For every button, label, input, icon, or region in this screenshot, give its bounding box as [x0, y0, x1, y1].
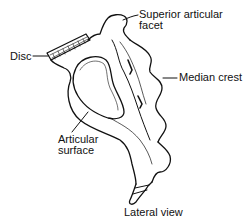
sacrum-lateral-view-diagram: Disc Superior articular facet Median cre… [0, 0, 251, 224]
articular-surface-shape [73, 57, 124, 119]
sacrum-drawing [0, 0, 251, 224]
label-articular-surface: Articular surface [58, 134, 118, 156]
label-articular-surface-line2: surface [58, 145, 118, 156]
label-median-crest: Median crest [179, 72, 242, 83]
leader-lines [33, 15, 177, 132]
label-superior-articular-facet-line2: facet [139, 20, 249, 31]
disc-shape [47, 34, 90, 60]
label-disc: Disc [10, 51, 31, 62]
figure-caption: Lateral view [124, 206, 183, 218]
sacrum-outline [51, 15, 170, 204]
label-superior-articular-facet: Superior articular facet [139, 9, 249, 31]
